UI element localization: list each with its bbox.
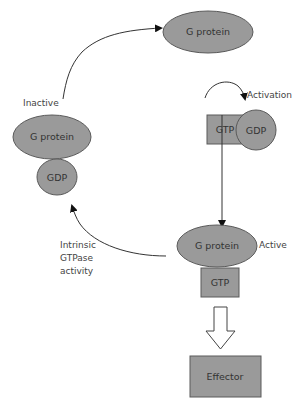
active-gtp-label: GTP (211, 277, 230, 288)
arrow-inactive-to-top (63, 28, 161, 99)
released-gdp-node: GDP (236, 110, 276, 150)
gtpase-label-line3: activity (60, 266, 94, 276)
inactive-label: Inactive (23, 98, 59, 108)
active-g-protein-node: G protein (177, 225, 257, 267)
active-gtp-node: GTP (201, 268, 239, 297)
gtpase-label-line1: Intrinsic (60, 240, 96, 250)
inactive-gdp-node: GDP (37, 159, 77, 195)
inactive-g-protein-node: G protein (13, 115, 91, 159)
signal-block-arrow (206, 307, 235, 349)
top-g-protein-label: G protein (186, 26, 230, 37)
free-gtp-label: GTP (216, 124, 235, 135)
g-protein-cycle-diagram: G protein Activation GTP GDP Inactive G … (0, 0, 301, 406)
activation-arrow (205, 82, 245, 99)
active-label: Active (259, 240, 287, 250)
active-g-protein-label: G protein (195, 240, 239, 251)
released-gdp-label: GDP (246, 125, 267, 136)
inactive-g-protein-label: G protein (30, 131, 74, 142)
effector-node: Effector (190, 356, 261, 397)
inactive-gdp-label: GDP (47, 172, 68, 183)
top-g-protein-node: G protein (163, 11, 253, 53)
effector-label: Effector (206, 371, 243, 382)
activation-label: Activation (247, 90, 292, 100)
gtpase-label-line2: GTPase (60, 253, 93, 263)
